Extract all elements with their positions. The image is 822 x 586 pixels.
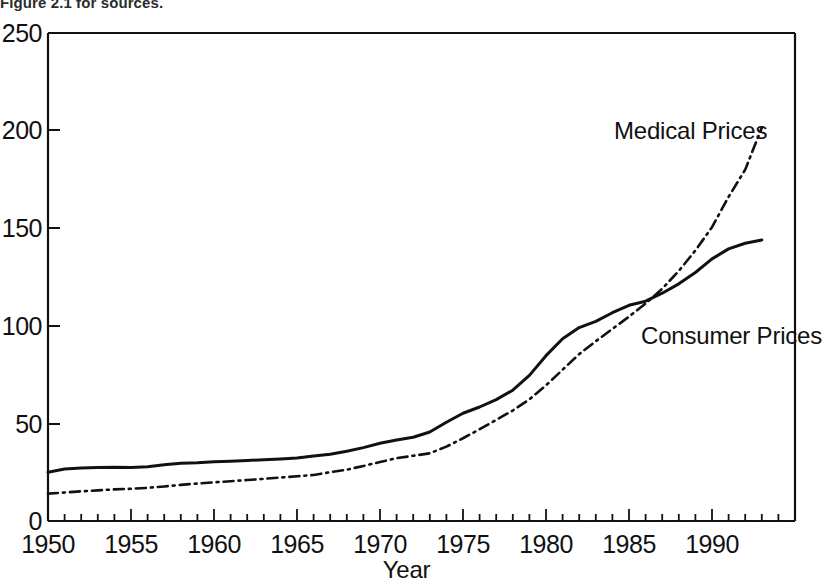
x-tick-label-1985: 1985: [602, 530, 656, 559]
x-axis-title: Year: [0, 556, 813, 584]
y-tick-label-150: 150: [0, 214, 42, 243]
y-tick-label-50: 50: [0, 410, 42, 439]
y-tick-label-100: 100: [0, 312, 42, 341]
x-tick-label-1960: 1960: [187, 530, 241, 559]
x-tick-label-1980: 1980: [519, 530, 573, 559]
annotation-consumer-prices: Consumer Prices: [641, 322, 822, 350]
y-axis-ticks: [48, 33, 60, 521]
x-tick-label-1970: 1970: [353, 530, 407, 559]
axis-frame: [48, 33, 795, 521]
series-line-consumer-prices: [48, 240, 762, 472]
y-tick-label-200: 200: [0, 116, 42, 145]
x-axis-ticks: [48, 509, 778, 521]
x-tick-label-1990: 1990: [685, 530, 739, 559]
annotation-medical-prices: Medical Prices: [614, 117, 767, 145]
x-tick-label-1975: 1975: [436, 530, 490, 559]
y-tick-label-250: 250: [0, 19, 42, 48]
x-tick-label-1965: 1965: [270, 530, 324, 559]
x-tick-label-1950: 1950: [21, 530, 75, 559]
x-tick-label-1955: 1955: [104, 530, 158, 559]
